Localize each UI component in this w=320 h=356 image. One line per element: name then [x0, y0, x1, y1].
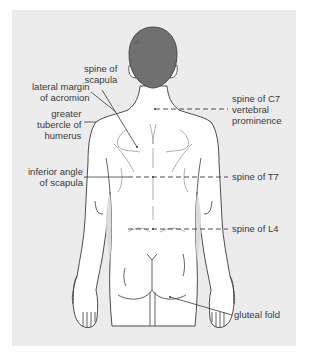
label-line: tubercle of [37, 119, 81, 130]
label-spine-c7: spine of C7 vertebral prominence [232, 93, 282, 126]
label-lateral-margin-acromion: lateral margin of acromion [32, 81, 90, 103]
label-line: of acromion [32, 92, 90, 103]
label-line: humerus [37, 130, 81, 141]
label-line: spine of C7 [232, 93, 282, 104]
label-gluteal-fold: gluteal fold [234, 309, 280, 320]
label-spine-t7: spine of T7 [232, 171, 279, 182]
label-inferior-angle-scapula: inferior angle of scapula [28, 166, 83, 188]
label-line: greater [37, 108, 81, 119]
label-line: inferior angle [28, 166, 83, 177]
label-line: gluteal fold [234, 309, 280, 320]
label-greater-tubercle-humerus: greater tubercle of humerus [37, 108, 81, 141]
label-line: lateral margin [32, 81, 90, 92]
label-line: spine of L4 [232, 223, 278, 234]
label-line: of scapula [28, 177, 83, 188]
label-line: prominence [232, 115, 282, 126]
body-outline [73, 86, 234, 328]
leader-lateral-acromion [91, 92, 116, 112]
label-line: spine of [84, 63, 117, 74]
label-spine-l4: spine of L4 [232, 223, 278, 234]
label-line: spine of T7 [232, 171, 279, 182]
label-line: vertebral [232, 104, 282, 115]
head [129, 27, 177, 88]
